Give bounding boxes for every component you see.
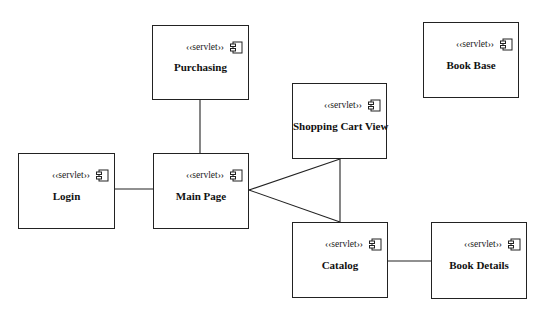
- node-catalog[interactable]: ‹‹servlet›› Catalog: [292, 222, 388, 298]
- component-icon: [368, 99, 381, 112]
- diagram-canvas: ‹‹servlet›› Purchasing ‹‹servlet›› Book …: [0, 0, 540, 312]
- node-book-base[interactable]: ‹‹servlet›› Book Base: [423, 22, 519, 98]
- component-icon: [508, 238, 521, 251]
- edge-main_page-catalog: [249, 190, 340, 222]
- node-title: Purchasing: [153, 61, 248, 73]
- stereotype-label: ‹‹servlet››: [325, 239, 363, 249]
- node-purchasing[interactable]: ‹‹servlet›› Purchasing: [152, 25, 249, 100]
- node-title: Shopping Cart View: [293, 120, 386, 132]
- node-title: Book Base: [424, 59, 518, 71]
- node-main-page[interactable]: ‹‹servlet›› Main Page: [153, 153, 249, 229]
- stereotype-label: ‹‹servlet››: [186, 170, 224, 180]
- node-book-details[interactable]: ‹‹servlet›› Book Details: [431, 222, 527, 299]
- node-title: Book Details: [432, 259, 526, 271]
- stereotype-label: ‹‹servlet››: [324, 100, 362, 110]
- node-title: Login: [19, 190, 114, 202]
- component-icon: [500, 38, 513, 51]
- node-shopping-cart-view[interactable]: ‹‹servlet›› Shopping Cart View: [292, 83, 387, 159]
- component-icon: [96, 169, 109, 182]
- stereotype-label: ‹‹servlet››: [464, 239, 502, 249]
- stereotype-label: ‹‹servlet››: [52, 170, 90, 180]
- node-login[interactable]: ‹‹servlet›› Login: [18, 153, 115, 229]
- component-icon: [230, 169, 243, 182]
- component-icon: [369, 238, 382, 251]
- node-title: Main Page: [154, 190, 248, 202]
- component-icon: [230, 41, 243, 54]
- stereotype-label: ‹‹servlet››: [186, 42, 224, 52]
- node-title: Catalog: [293, 259, 387, 271]
- stereotype-label: ‹‹servlet››: [456, 39, 494, 49]
- edge-main_page-shopping_cart_view: [249, 159, 340, 190]
